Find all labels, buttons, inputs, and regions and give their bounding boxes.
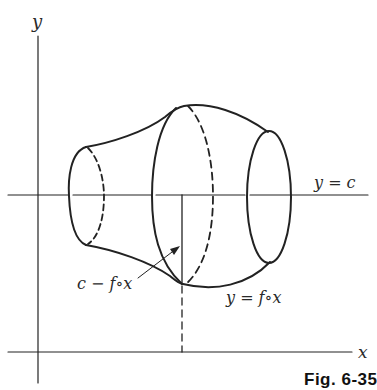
arrowhead-icon bbox=[170, 246, 180, 255]
x-axis-label: x bbox=[358, 342, 368, 362]
y-axis-label: y bbox=[31, 11, 43, 32]
middle-section-front-arc bbox=[152, 108, 182, 284]
distance-label: c − f∘x bbox=[77, 274, 132, 293]
figure-caption: Fig. 6-35 bbox=[304, 370, 377, 390]
left-cap-back-arc bbox=[88, 148, 104, 244]
curve-label: y = f∘x bbox=[225, 288, 281, 307]
left-cap-front-arc bbox=[69, 147, 86, 245]
top-profile-curve bbox=[86, 105, 268, 147]
label-pointer-line bbox=[138, 249, 176, 278]
right-cap-ellipse bbox=[247, 131, 291, 263]
line-y-equals-c-label: y = c bbox=[313, 173, 356, 192]
